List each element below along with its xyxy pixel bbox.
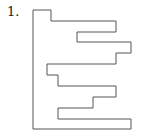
polygon-figure	[0, 0, 144, 140]
rectilinear-shape	[33, 10, 131, 129]
